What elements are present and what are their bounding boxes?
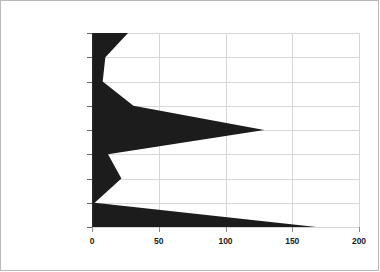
plot-area: 050100150200 <box>92 33 359 227</box>
x-tick-label-150: 150 <box>272 236 312 246</box>
x-tick-label-200: 200 <box>339 236 379 246</box>
x-tick-50 <box>159 227 160 232</box>
x-tick-label-0: 0 <box>72 236 112 246</box>
chart-container: Services Fin, Ins, Real Est. Retail Trad… <box>0 0 380 272</box>
x-tick-150 <box>292 227 293 232</box>
x-tick-0 <box>92 227 93 232</box>
y-axis-line <box>92 33 93 227</box>
gridline-x-200 <box>359 33 360 227</box>
area-series-path <box>92 33 359 227</box>
x-tick-100 <box>226 227 227 232</box>
x-tick-label-50: 50 <box>139 236 179 246</box>
x-tick-200 <box>359 227 360 232</box>
x-tick-label-100: 100 <box>206 236 246 246</box>
